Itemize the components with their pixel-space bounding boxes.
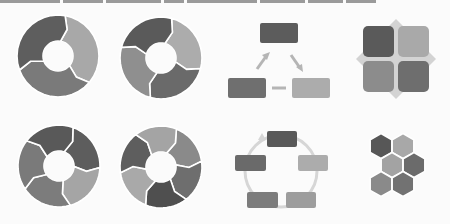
ring-5-segments-icon [18,125,100,207]
ring-6-segments-icon [120,126,202,208]
icon-set-canvas [0,0,450,224]
ring-3-segments-icon [17,15,99,97]
arrow-icon [258,133,266,140]
hex-cluster-icon [370,134,425,197]
box-cycle-icon [235,131,328,208]
hex-cell [370,172,392,197]
ring-segment [62,167,100,206]
grid-cell-top-right [398,26,429,57]
flow-box-top [260,23,298,43]
flow-box-left [228,78,266,98]
cycle-box-bottom-right [286,192,316,208]
ring-4-segments-icon [120,17,202,99]
cycle-box-bottom-left [247,192,278,208]
cycle-box-left [235,155,266,171]
cycle-box-top [267,131,297,147]
grid-cell-top-left [363,26,394,57]
grid-cell-bottom-right [398,61,429,92]
cycle-box-right [298,155,328,171]
triangle-flow-icon [228,23,330,98]
quad-grid-icon [356,19,436,99]
hex-cell [392,172,414,197]
grid-cell-bottom-left [363,61,394,92]
ring-segment [17,15,67,70]
flow-box-right [292,78,330,98]
